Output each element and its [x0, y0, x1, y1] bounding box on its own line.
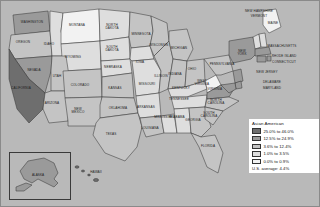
- choropleth-map: WASHINGTONOREGONIDAHOMONTANAWYOMINGNEVAD…: [0, 0, 320, 207]
- state-shape-louisiana: [140, 116, 164, 137]
- state-shape-kansas: [102, 73, 134, 98]
- legend-swatch: [252, 151, 261, 156]
- hawaii-islands: [75, 166, 99, 182]
- legend-item: 3.6% to 12.4%: [252, 143, 317, 150]
- legend-swatch: [252, 128, 261, 133]
- alaska-label: ALASKA: [32, 173, 44, 177]
- state-shape-maine: [263, 9, 281, 33]
- legend-label: 1.0% to 3.5%: [263, 151, 289, 156]
- state-shape-michigan: [169, 29, 193, 61]
- state-shape-tennessee: [171, 95, 207, 109]
- state-shape-texas: [93, 113, 142, 161]
- state-shape-mississippi: [161, 114, 177, 133]
- alaska-aleutians: [16, 183, 32, 191]
- legend-swatch: [252, 159, 261, 164]
- state-shape-new-mexico: [65, 97, 102, 126]
- legend-swatch: [252, 144, 261, 149]
- state-shape-missouri: [132, 59, 161, 96]
- state-shape-colorado: [63, 69, 102, 98]
- state-shape-south-dakota: [100, 37, 130, 61]
- state-shape-florida: [191, 133, 223, 173]
- state-shape-iowa: [130, 46, 154, 61]
- state-shape-oregon: [9, 31, 52, 59]
- state-shape-north-dakota: [99, 9, 130, 41]
- legend-title: Asian American: [252, 121, 317, 126]
- state-shape-minnesota: [129, 12, 153, 48]
- state-shape-new-jersey: [233, 69, 243, 83]
- legend-label: 12.5% to 24.9%: [263, 136, 293, 141]
- legend-label: 3.6% to 12.4%: [263, 144, 291, 149]
- state-shape-rhode-island: [267, 56, 271, 61]
- legend-item: 0.0% to 0.9%: [252, 158, 317, 165]
- legend: Asian American 25.0% to 46.0%12.5% to 24…: [249, 119, 319, 173]
- state-shape-alabama: [174, 108, 191, 133]
- legend-label: 0.0% to 0.9%: [263, 159, 289, 164]
- state-shape-arkansas: [136, 93, 161, 118]
- legend-label: 25.0% to 46.0%: [263, 129, 293, 134]
- legend-item: 1.0% to 3.5%: [252, 150, 317, 157]
- state-shape-new-york: [229, 37, 257, 63]
- legend-rows: 25.0% to 46.0%12.5% to 24.9%3.6% to 12.4…: [252, 128, 317, 165]
- legend-item: 12.5% to 24.9%: [252, 135, 317, 142]
- legend-item: 25.0% to 46.0%: [252, 128, 317, 135]
- state-shape-connecticut: [257, 56, 266, 62]
- state-shape-pennsylvania: [204, 55, 233, 75]
- legend-swatch: [252, 136, 261, 141]
- legend-us-average: U.S. average: 4.4%: [252, 166, 317, 171]
- state-shape-montana: [61, 9, 100, 44]
- alaska-inset-box: ALASKA: [9, 152, 71, 200]
